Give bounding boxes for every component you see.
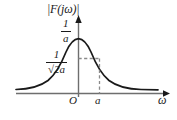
half-power-value-label: 1 √2a [46, 49, 67, 75]
x-tick-label-a: a [95, 95, 101, 106]
magnitude-axis-title: |F(jω)| [47, 3, 79, 15]
magnitude-axis-arrow [75, 15, 81, 23]
fourier-magnitude-figure: |F(jω)| ω O a 1 a 1 √2a [0, 0, 177, 120]
peak-value-label: 1 a [61, 18, 71, 44]
peak-denominator: a [61, 33, 71, 45]
half-power-numerator: 1 [46, 49, 67, 61]
plot-canvas [0, 0, 177, 120]
peak-numerator: 1 [61, 18, 71, 30]
magnitude-curve [16, 39, 158, 90]
half-power-denominator: √2a [46, 64, 67, 76]
origin-label: O [69, 95, 77, 106]
omega-axis-label: ω [158, 94, 166, 106]
half-power-denominator-tail: a [60, 63, 66, 75]
